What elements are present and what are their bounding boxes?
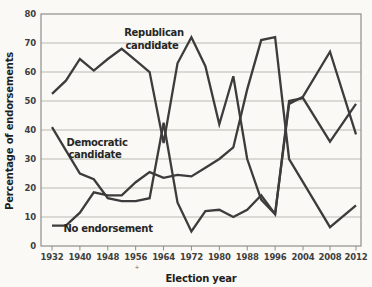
y-tick-label: 10 [25,212,37,222]
x-tick-label: 1948 [96,252,119,262]
no-endorsement-series-label: No endorsement [63,223,153,234]
y-tick-label: 20 [25,183,37,193]
y-tick-label: 30 [25,154,37,164]
x-tick-label: 2012 [345,252,368,262]
x-tick-label: 1988 [236,252,259,262]
endorsements-chart-page: 0102030405060708019321940194819561964197… [0,0,372,287]
x-tick-label: 1940 [68,252,91,262]
x-axis-title: Election year [165,273,236,284]
x-tick-label: 1956 [124,252,147,262]
x-tick-label: 1964 [152,252,175,262]
x-tick-label: 2004 [292,252,315,262]
endorsements-line-chart: 0102030405060708019321940194819561964197… [0,0,372,287]
x-tick-label: 1932 [41,252,64,262]
democratic-series-label-line1: Democratic [66,137,127,148]
y-axis-title: Percentage of endorsements [4,52,15,210]
y-tick-label: 60 [25,67,37,77]
democratic-series-label-line2: candidate [68,149,122,160]
x-tick-label: 1996 [264,252,287,262]
y-tick-label: 50 [25,96,37,106]
republican-series-label-line2: candidate [125,40,179,51]
x-tick-label: 2008 [319,252,342,262]
y-tick-label: 80 [25,9,37,19]
x-tick-label: 1980 [208,252,231,262]
y-tick-label: 40 [25,125,37,135]
footnote-mark: + [134,263,139,270]
republican-series-label-line1: Republican [124,27,184,38]
y-tick-label: 70 [25,38,37,48]
x-tick-label: 1972 [180,252,203,262]
y-tick-label: 0 [30,241,36,251]
